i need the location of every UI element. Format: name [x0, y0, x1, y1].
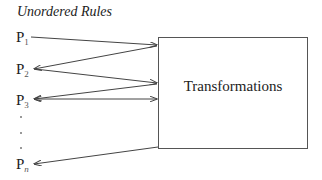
arrow-box-to-pn	[34, 147, 158, 164]
arrows-layer	[0, 0, 322, 180]
arrow-p1-to-box	[31, 37, 157, 45]
arrow-box-to-p3	[34, 84, 157, 99]
arrow-box-to-p2	[34, 46, 157, 69]
arrow-p2-to-box	[35, 69, 157, 83]
